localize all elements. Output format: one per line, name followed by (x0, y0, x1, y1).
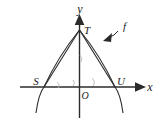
x-axis-label: x (146, 80, 153, 94)
callout-arrowhead (103, 33, 112, 42)
faint-mark-upper (80, 55, 82, 62)
point-label-U: U (117, 75, 126, 87)
function-callout: f (103, 20, 128, 42)
function-label-f: f (123, 20, 128, 32)
origin-label: O (81, 90, 88, 101)
chord-segment-ST (44, 30, 80, 87)
y-axis-label: y (76, 2, 83, 16)
math-figure: x y f S T U O (0, 0, 162, 128)
point-label-S: S (33, 75, 39, 87)
faint-construction-marks (57, 55, 94, 88)
faint-mark-right-angle (92, 78, 94, 86)
x-axis-arrowhead (135, 82, 146, 92)
faint-mark-left-angle (73, 80, 75, 86)
figure-canvas: x y f S T U O (0, 0, 162, 128)
point-label-T: T (84, 24, 91, 36)
